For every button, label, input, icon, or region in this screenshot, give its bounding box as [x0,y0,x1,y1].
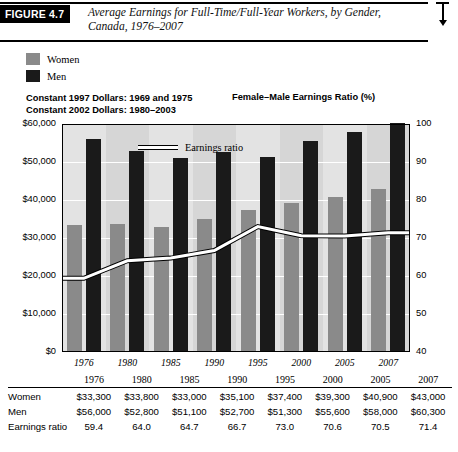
table-cell: 66.7 [213,419,261,434]
table-cell: $43,000 [404,389,452,404]
table-cell: 64.7 [166,419,214,434]
x-tick-1985: 1985 [149,357,193,368]
table-cell: $52,800 [118,404,166,419]
plot-border [62,124,410,352]
table-header-cell: 2005 [357,372,405,388]
earnings-ratio-line-swatch [138,145,178,150]
y-tick-right: 100 [416,118,450,128]
table-cell: $33,300 [70,389,118,404]
table-row: Women$33,300$33,800$33,000$35,100$37,400… [8,389,452,404]
figure-header: FIGURE 4.7 Average Earnings for Full-Tim… [0,0,458,46]
table-cell: 70.6 [309,419,357,434]
pullout-bracket-icon [436,2,450,24]
chart-legend: Women Men [26,52,79,86]
table-cell: $39,300 [309,389,357,404]
table-cell: $51,300 [261,404,309,419]
table-cell: 64.0 [118,419,166,434]
y-tick-left: $50,000 [4,156,56,166]
chart-plot-area: Earnings ratio [62,124,410,352]
legend-label-women: Women [47,54,79,65]
y-tick-left: $10,000 [4,308,56,318]
x-tick-2007: 2007 [366,357,410,368]
data-table: 19761980198519901995200020052007Women$33… [8,372,452,434]
header-rule-top [0,2,428,4]
table-cell: $40,900 [357,389,405,404]
table-header-cell: 1985 [166,372,214,388]
legend-swatch-men [26,70,40,82]
dollar-basis-line2: Constant 2002 Dollars: 1980–2003 [26,104,192,116]
table-row-label: Women [8,389,70,404]
table-header-cell: 1995 [261,372,309,388]
dollar-basis-note: Constant 1997 Dollars: 1969 and 1975 Con… [26,92,192,116]
y-tick-left: $0 [4,346,56,356]
x-tick-2005: 2005 [323,357,367,368]
right-axis-title: Female–Male Earnings Ratio (%) [232,92,375,102]
y-tick-right: 60 [416,270,450,280]
y-tick-right: 70 [416,232,450,242]
table-cell: $37,400 [261,389,309,404]
table-header-cell [8,372,70,388]
inline-legend-earnings-ratio: Earnings ratio [138,142,243,153]
table-cell: $60,300 [404,404,452,419]
x-tick-1976: 1976 [62,357,106,368]
legend-item-women: Women [26,52,79,66]
earnings-ratio-legend-label: Earnings ratio [185,142,243,153]
table-row-label: Men [8,404,70,419]
table-header-cell: 1980 [118,372,166,388]
table-cell: $55,600 [309,404,357,419]
x-tick-1995: 1995 [236,357,280,368]
table-cell: $52,700 [213,404,261,419]
table-cell: $56,000 [70,404,118,419]
y-tick-right: 50 [416,308,450,318]
table-cell: $51,100 [166,404,214,419]
y-tick-left: $20,000 [4,270,56,280]
table-header-cell: 1976 [70,372,118,388]
table-cell: 73.0 [261,419,309,434]
y-tick-right: 80 [416,194,450,204]
figure-number-badge: FIGURE 4.7 [0,5,70,23]
legend-label-men: Men [47,71,66,82]
legend-item-men: Men [26,69,79,83]
table-cell: $35,100 [213,389,261,404]
x-tick-1980: 1980 [105,357,149,368]
table-row-label: Earnings ratio [8,419,70,434]
y-tick-right: 40 [416,346,450,356]
figure-title: Average Earnings for Full-Time/Full-Year… [88,6,418,34]
table-row: Earnings ratio59.464.064.766.773.070.670… [8,419,452,434]
table-header-cell: 2000 [309,372,357,388]
y-tick-left: $60,000 [4,118,56,128]
x-tick-1990: 1990 [192,357,236,368]
table-row: Men$56,000$52,800$51,100$52,700$51,300$5… [8,404,452,419]
table-cell: 70.5 [357,419,405,434]
table-cell: $33,000 [166,389,214,404]
legend-swatch-women [26,53,40,65]
x-tick-2000: 2000 [279,357,323,368]
table-cell: 71.4 [404,419,452,434]
header-rule-bottom [0,40,428,42]
table-header-cell: 1990 [213,372,261,388]
dollar-basis-line1: Constant 1997 Dollars: 1969 and 1975 [26,92,192,104]
table-header-row: 19761980198519901995200020052007 [8,372,452,388]
table-cell: 59.4 [70,419,118,434]
y-tick-left: $30,000 [4,232,56,242]
table-cell: $33,800 [118,389,166,404]
table-header-cell: 2007 [404,372,452,388]
y-tick-left: $40,000 [4,194,56,204]
y-tick-right: 90 [416,156,450,166]
table-cell: $58,000 [357,404,405,419]
